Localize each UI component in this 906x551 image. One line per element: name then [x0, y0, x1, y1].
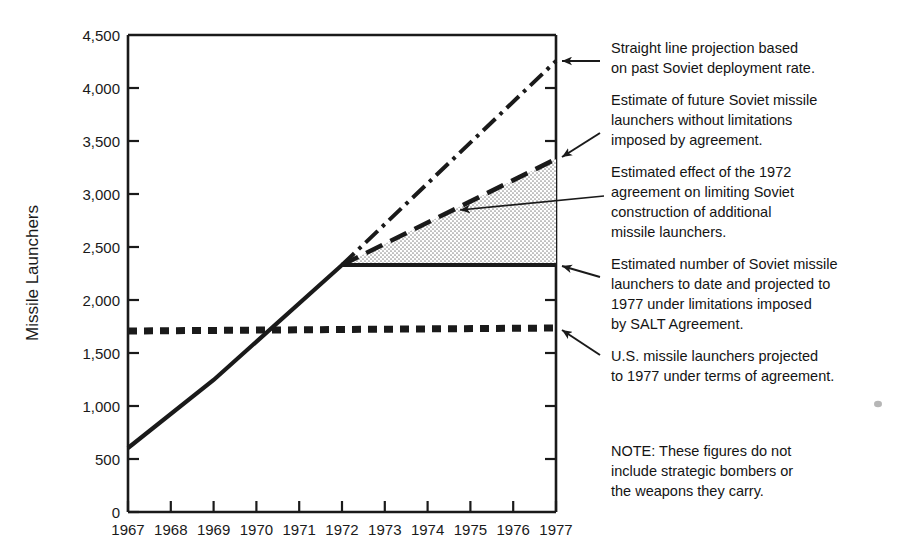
scan-artifact-speck [874, 401, 882, 407]
x-tick-label: 1972 [325, 521, 358, 538]
footnote-line: include strategic bombers or [611, 463, 793, 479]
annotation-line: on past Soviet deployment rate. [611, 60, 815, 76]
leader-line-salt-limited [562, 266, 600, 277]
annotation-line: Estimated effect of the 1972 [611, 164, 791, 180]
annotation-salt-limited: Estimated number of Soviet missile launc… [611, 256, 837, 332]
y-tick-label: 2,500 [82, 239, 120, 256]
annotation-line: 1977 under limitations imposed [611, 296, 812, 312]
chart-footnote: NOTE: These figures do not include strat… [611, 443, 793, 499]
x-tick-label: 1967 [111, 521, 144, 538]
x-tick-label: 1973 [368, 521, 401, 538]
annotation-agreement-effect: Estimated effect of the 1972 agreement o… [611, 164, 794, 240]
annotation-line: Estimate of future Soviet missile [611, 92, 817, 108]
x-axis-ticks [128, 501, 556, 512]
leader-line-us-launchers [562, 330, 600, 355]
y-tick-label: 500 [95, 451, 120, 468]
plot-frame [128, 35, 556, 512]
annotation-line: Estimated number of Soviet missile [611, 256, 837, 272]
annotation-us-launchers: U.S. missile launchers projected to 1977… [611, 348, 834, 384]
y-tick-label: 0 [112, 504, 120, 521]
x-tick-label: 1970 [240, 521, 273, 538]
annotation-line: U.S. missile launchers projected [611, 348, 818, 364]
right-axis-ticks [545, 88, 556, 459]
x-axis-tick-labels: 1967 1968 1969 1970 1971 1972 1973 1974 … [111, 521, 572, 538]
annotation-line: imposed by agreement. [611, 132, 763, 148]
annotation-unlimited-estimate: Estimate of future Soviet missile launch… [611, 92, 817, 148]
annotation-line: construction of additional [611, 204, 771, 220]
y-axis-tick-labels: 0 500 1,000 1,500 2,000 2,500 3,000 3,50… [82, 27, 120, 521]
chart-canvas: 0 500 1,000 1,500 2,000 2,500 3,000 3,50… [0, 0, 906, 551]
y-tick-label: 3,000 [82, 186, 120, 203]
series-soviet-salt-limited [128, 265, 556, 448]
y-tick-label: 4,500 [82, 27, 120, 44]
x-tick-label: 1977 [539, 521, 572, 538]
y-tick-label: 3,500 [82, 133, 120, 150]
annotation-projection: Straight line projection based on past S… [611, 40, 815, 76]
leader-line-unlimited-estimate [562, 133, 600, 157]
y-tick-label: 4,000 [82, 80, 120, 97]
x-tick-label: 1975 [454, 521, 487, 538]
x-tick-label: 1971 [283, 521, 316, 538]
annotation-line: launchers to date and projected to [611, 276, 830, 292]
annotation-line: launchers without limitations [611, 112, 792, 128]
y-tick-label: 1,500 [82, 345, 120, 362]
footnote-line: NOTE: These figures do not [611, 443, 791, 459]
y-axis-title: Missile Launchers [23, 205, 42, 341]
annotation-line: to 1977 under terms of agreement. [611, 368, 834, 384]
missile-launchers-chart: 0 500 1,000 1,500 2,000 2,500 3,000 3,50… [0, 0, 906, 551]
x-tick-label: 1968 [154, 521, 187, 538]
y-tick-label: 2,000 [82, 292, 120, 309]
annotation-line: agreement on limiting Soviet [611, 184, 794, 200]
x-tick-label: 1969 [197, 521, 230, 538]
y-tick-label: 1,000 [82, 398, 120, 415]
series-us-missile-launchers [128, 328, 556, 331]
x-tick-label: 1974 [411, 521, 444, 538]
annotation-line: missile launchers. [611, 224, 726, 240]
annotation-line: by SALT Agreement. [611, 316, 743, 332]
x-tick-label: 1976 [497, 521, 530, 538]
annotation-line: Straight line projection based [611, 40, 798, 56]
footnote-line: the weapons they carry. [611, 483, 764, 499]
